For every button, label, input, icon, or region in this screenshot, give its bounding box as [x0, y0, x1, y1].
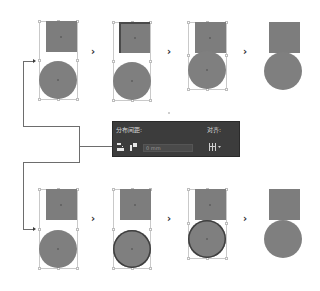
selection-handle [149, 99, 152, 102]
selection-handle [38, 267, 41, 270]
connector-line [23, 162, 24, 229]
connector-line [23, 61, 33, 62]
selection-handle [112, 267, 115, 270]
center-point [209, 204, 211, 206]
center-point [57, 248, 59, 250]
step-arrow-icon: › [243, 47, 247, 57]
square-shape[interactable] [269, 22, 300, 53]
connector-line [23, 126, 79, 127]
center-point [134, 37, 136, 39]
selection-handle [38, 20, 41, 23]
selection-handle [225, 257, 228, 260]
selection-handle [187, 21, 190, 24]
vertical-distribute-space-icon[interactable] [117, 143, 125, 151]
selection-handle [187, 222, 190, 225]
selection-handle [112, 99, 115, 102]
step-arrow-icon: › [91, 214, 95, 224]
selection-handle [149, 228, 152, 231]
distribute-spacing-label: 分布间距: [116, 126, 142, 134]
step-arrow-icon: › [167, 47, 171, 57]
selection-handle [187, 257, 190, 260]
center-point [57, 79, 59, 81]
center-point [168, 112, 170, 114]
spacing-value-field[interactable]: 0 mm [143, 144, 193, 152]
align-panel: 分布间距: 对齐: 0 mm [112, 121, 240, 157]
center-point [206, 69, 208, 71]
selection-handle [38, 188, 41, 191]
center-point [206, 238, 208, 240]
selection-handle [225, 88, 228, 91]
selection-handle [187, 88, 190, 91]
selection-handle [149, 60, 152, 63]
connector-line [79, 126, 80, 163]
circle-shape[interactable] [264, 52, 302, 90]
selection-handle [38, 59, 41, 62]
horizontal-distribute-space-icon[interactable] [130, 143, 138, 151]
selection-handle [112, 60, 115, 63]
align-to-menu-icon[interactable] [209, 143, 221, 151]
center-point [60, 36, 62, 38]
selection-handle [187, 188, 190, 191]
selection-handle [112, 188, 115, 191]
selection-handle [149, 267, 152, 270]
connector-line [23, 229, 33, 230]
selection-handle [112, 21, 115, 24]
center-point [131, 80, 133, 82]
center-point [209, 37, 211, 39]
spacing-value: 0 mm [146, 145, 161, 151]
align-to-label: 对齐: [207, 126, 221, 134]
square-shape[interactable] [269, 189, 300, 220]
selection-handle [225, 54, 228, 57]
connector-line [79, 146, 112, 147]
selection-handle [225, 222, 228, 225]
circle-shape[interactable] [264, 220, 302, 258]
step-arrow-icon: › [167, 214, 171, 224]
selection-handle [76, 59, 79, 62]
connector-arrowhead-icon [33, 59, 36, 63]
connector-line [23, 162, 79, 163]
selection-handle [38, 228, 41, 231]
step-arrow-icon: › [243, 214, 247, 224]
selection-handle [76, 267, 79, 270]
selection-handle [76, 228, 79, 231]
selection-handle [38, 98, 41, 101]
step-arrow-icon: › [91, 47, 95, 57]
selection-handle [76, 98, 79, 101]
center-point [60, 204, 62, 206]
diagram-canvas: › › › 分布间距: 对齐: [0, 0, 320, 291]
selection-handle [187, 54, 190, 57]
center-point [131, 248, 133, 250]
center-point [134, 204, 136, 206]
connector-arrowhead-icon [33, 227, 36, 231]
connector-line [23, 61, 24, 127]
selection-handle [112, 228, 115, 231]
